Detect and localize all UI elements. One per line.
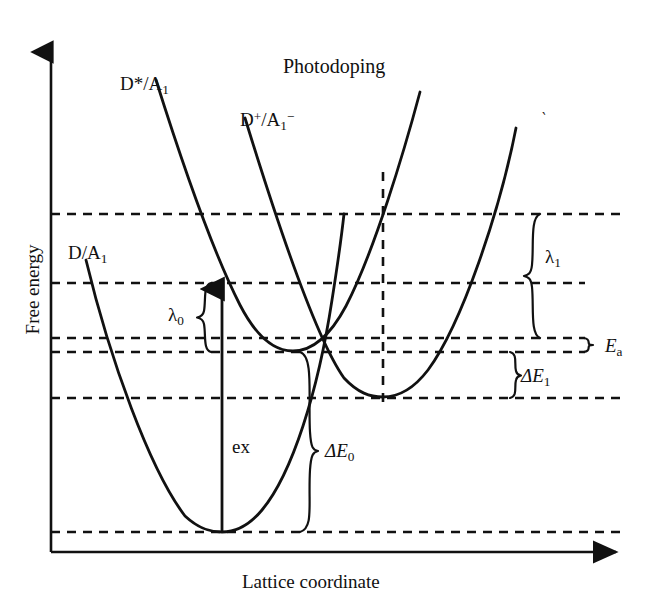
delta-e0-sub: 0: [348, 449, 355, 464]
curve-ground-state: [86, 214, 344, 532]
lambda0-sub: 0: [177, 313, 184, 328]
delta-e0-symbol: ΔE: [325, 440, 348, 461]
delta-e1-symbol: ΔE: [521, 365, 544, 386]
ea-sub: a: [617, 344, 623, 359]
brace-lambda1: [524, 214, 540, 338]
lambda0-symbol: λ: [168, 304, 177, 325]
annotation-lambda0: λ0: [168, 305, 184, 327]
lambda1-sub: 1: [554, 255, 561, 270]
lambda1-symbol: λ: [545, 246, 554, 267]
annotation-delta-e1: ΔE1: [521, 366, 550, 388]
curve-label-excited-state-text: D*/A: [120, 73, 162, 94]
curve-label-excited-state: D*/A1: [120, 74, 169, 96]
delta-e1-sub: 1: [544, 374, 551, 389]
figure-title: Photodoping: [283, 56, 385, 76]
curve-charge-separated-state: [245, 118, 516, 397]
free-energy-diagram: Photodoping D*/A1 D+/A1− D/A1 λ0 λ1 Ea Δ…: [0, 0, 659, 605]
free-energy-curves: [86, 80, 516, 532]
x-axis-label: Lattice coordinate: [242, 572, 380, 591]
brace-delta-e1: [510, 352, 521, 398]
ea-symbol: E: [605, 335, 617, 356]
cs-label-slash-a: /A: [261, 109, 280, 130]
curve-label-excited-state-sub: 1: [162, 82, 169, 97]
annotation-activation-energy: Ea: [605, 336, 623, 358]
annotation-delta-e0: ΔE0: [325, 441, 354, 463]
curve-label-charge-separated-state: D+/A1−: [240, 110, 294, 132]
curve-label-ground-state-text: D/A: [68, 242, 101, 263]
annotation-lambda1: λ1: [545, 247, 561, 269]
axes: [51, 52, 616, 552]
cs-label-minus: −: [287, 109, 295, 124]
stray-tick-mark-icon: ‵: [542, 111, 546, 127]
y-axis-label: Free energy: [23, 230, 42, 350]
curve-label-ground-state-sub: 1: [101, 251, 108, 266]
curve-label-ground-state: D/A1: [68, 243, 107, 265]
diagram-canvas: [0, 0, 659, 605]
brace-lambda0: [197, 283, 211, 352]
annotation-excitation: ex: [232, 437, 250, 456]
cs-label-sub-one: 1: [280, 118, 287, 133]
brace-ea: [584, 338, 593, 352]
cs-label-d: D: [240, 109, 254, 130]
